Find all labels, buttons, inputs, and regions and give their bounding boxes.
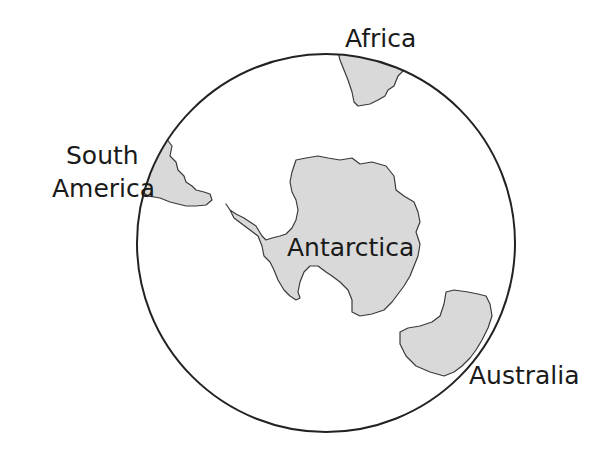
globe-svg: [0, 0, 611, 460]
label-antarctica: Antarctica: [287, 235, 414, 260]
label-south-america-line2: America: [52, 176, 155, 201]
label-australia: Australia: [469, 363, 580, 388]
label-africa: Africa: [345, 26, 416, 51]
label-south-america-line1: South: [66, 143, 139, 168]
map-canvas: Africa South America Antarctica Australi…: [0, 0, 611, 460]
